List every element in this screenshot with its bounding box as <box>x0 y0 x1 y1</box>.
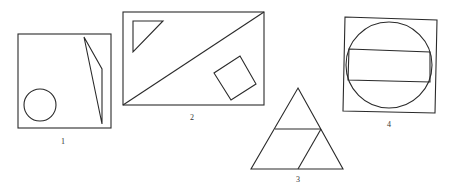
figure-1: 1 <box>18 34 111 146</box>
figure-4-square <box>343 17 437 113</box>
figure-4-rectangle <box>348 49 430 82</box>
figure-4-circle <box>346 22 432 108</box>
figure-4-label: 4 <box>387 120 391 129</box>
figure-2-small-triangle <box>133 21 163 52</box>
figure-1-thin-triangle <box>84 37 102 124</box>
figure-3-inner-line <box>298 129 321 169</box>
figure-3-label: 3 <box>296 175 300 184</box>
figure-1-square <box>18 34 111 128</box>
figure-2-rotated-square <box>214 56 256 100</box>
figure-4: 4 <box>343 17 437 129</box>
figure-2: 2 <box>123 12 264 122</box>
figure-2-diagonal <box>123 12 264 105</box>
figure-panel: 1 2 3 4 <box>0 0 449 190</box>
figure-1-circle <box>24 89 56 121</box>
figure-2-label: 2 <box>190 113 194 122</box>
diagram-canvas: 1 2 3 4 <box>0 0 449 190</box>
figure-3: 3 <box>251 88 343 184</box>
figure-1-label: 1 <box>61 137 65 146</box>
